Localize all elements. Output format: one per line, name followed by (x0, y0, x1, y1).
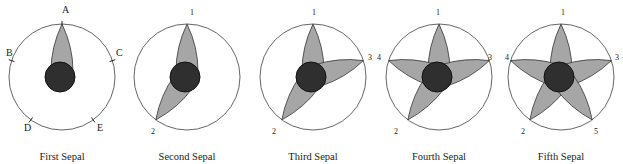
position-label: D (24, 122, 31, 133)
position-label: C (116, 47, 123, 58)
panel-third-sepal: 132 Third Sepal (251, 0, 375, 164)
caption-third-sepal: Third Sepal (251, 151, 375, 162)
position-label: 2 (151, 127, 155, 136)
center-disc (170, 62, 200, 92)
position-label: 3 (615, 53, 619, 62)
center-disc (45, 62, 75, 92)
caption-fifth-sepal: Fifth Sepal (499, 151, 623, 162)
panel-second-sepal: 12 Second Sepal (125, 0, 249, 164)
position-label: 1 (190, 8, 194, 17)
center-disc (544, 62, 574, 92)
position-label: 4 (505, 53, 509, 62)
panel-fourth-sepal: 1342 Fourth Sepal (377, 0, 501, 164)
fifth-sepal-figure: 13425 (499, 0, 623, 150)
second-sepal-figure: 12 (125, 0, 249, 150)
position-label: 4 (377, 53, 381, 62)
position-label: 5 (594, 127, 598, 136)
position-label: B (6, 47, 13, 58)
panel-first-sepal: ABCDE First Sepal (0, 0, 124, 164)
third-sepal-figure: 132 (251, 0, 375, 150)
fourth-sepal-figure: 1342 (377, 0, 501, 150)
panel-fifth-sepal: 13425 Fifth Sepal (499, 0, 623, 164)
position-label: 3 (488, 53, 492, 62)
caption-fourth-sepal: Fourth Sepal (377, 151, 501, 162)
position-label: E (97, 122, 103, 133)
position-label: 1 (436, 8, 440, 17)
position-label: A (62, 4, 70, 15)
tick-mark (91, 117, 95, 122)
position-label: 2 (521, 127, 525, 136)
position-label: 2 (272, 127, 276, 136)
caption-second-sepal: Second Sepal (125, 151, 249, 162)
center-disc (422, 62, 452, 92)
caption-first-sepal: First Sepal (0, 151, 124, 162)
first-sepal-figure: ABCDE (0, 0, 124, 150)
position-label: 1 (312, 8, 316, 17)
position-label: 3 (368, 53, 372, 62)
center-disc (296, 62, 326, 92)
position-label: 1 (561, 8, 565, 17)
position-label: 2 (394, 127, 398, 136)
